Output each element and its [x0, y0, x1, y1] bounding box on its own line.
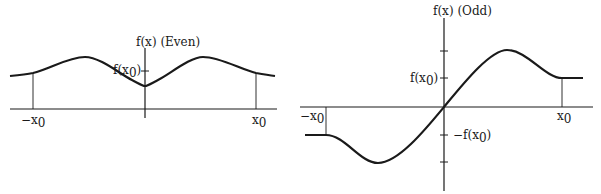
odd-graph-title: f(x) (Odd): [433, 4, 492, 18]
odd-x0-label: x0: [557, 109, 571, 126]
odd-neg-x0-label: −x0: [300, 109, 324, 126]
even-function-graph: f(x) (Even) f(x0) −x0 x0: [10, 35, 277, 130]
even-odd-function-figure: f(x) (Even) f(x0) −x0 x0 f(x) (Odd) f(x0…: [0, 0, 601, 194]
odd-function-graph: f(x) (Odd) f(x0) −f(x0) −x0 x0: [300, 4, 593, 191]
even-neg-x0-label: −x0: [21, 113, 45, 130]
even-x0-label: x0: [252, 113, 266, 130]
odd-neg-fx0-label: −f(x0): [453, 128, 491, 145]
odd-fx0-label: f(x0): [410, 71, 438, 88]
even-graph-title: f(x) (Even): [136, 35, 200, 49]
